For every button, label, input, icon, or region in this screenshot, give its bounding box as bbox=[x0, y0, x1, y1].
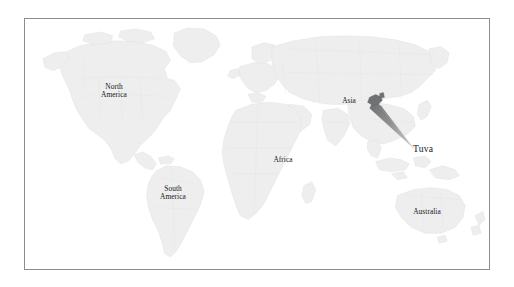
map-label-tuva: Tuva bbox=[413, 143, 457, 154]
map-label-south-america: South America bbox=[149, 185, 197, 202]
map-label-australia: Australia bbox=[401, 208, 453, 216]
map-label-north-america: North America bbox=[90, 83, 138, 100]
map-label-africa: Africa bbox=[259, 156, 307, 164]
map-frame: North America South America Africa Asia … bbox=[24, 18, 490, 270]
map-label-asia: Asia bbox=[332, 97, 366, 105]
world-map-figure: North America South America Africa Asia … bbox=[0, 0, 514, 287]
